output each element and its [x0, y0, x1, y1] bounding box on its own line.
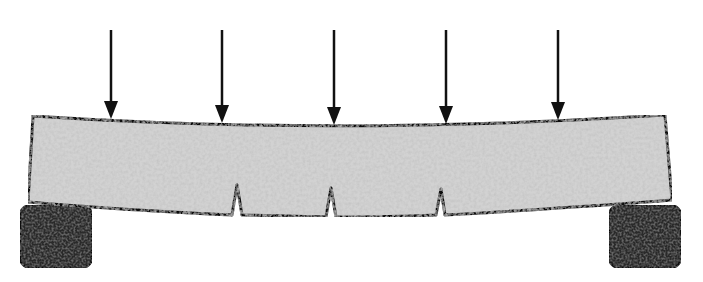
load-arrow-5 — [551, 30, 565, 120]
load-arrows — [104, 30, 565, 125]
right-support — [609, 205, 681, 268]
diagram-canvas — [0, 0, 703, 282]
beam-diagram: concrete beam under distributed point lo… — [0, 0, 703, 282]
concrete-beam — [28, 115, 672, 217]
load-arrow-3 — [327, 30, 341, 125]
load-arrow-4 — [439, 30, 453, 124]
load-arrow-2 — [215, 30, 229, 123]
left-support — [20, 205, 92, 268]
load-arrow-1 — [104, 30, 118, 119]
